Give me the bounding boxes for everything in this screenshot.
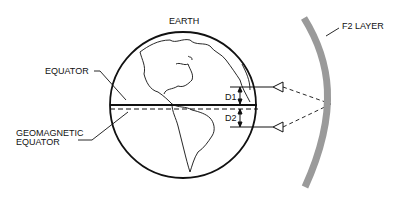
diagram-canvas: EARTH F2 LAYER EQUATOR GEOMAGNETIC EQUAT… xyxy=(0,0,399,197)
geomagnetic-label-line2: EQUATOR xyxy=(16,137,60,147)
earth-label: EARTH xyxy=(169,16,199,26)
d1-label: D1 xyxy=(225,92,237,102)
equator-label: EQUATOR xyxy=(45,66,89,76)
f2-layer-arc xyxy=(304,18,328,187)
d2-label: D2 xyxy=(225,113,237,123)
antenna-upper-icon xyxy=(273,82,283,92)
dimension-arrows xyxy=(238,87,242,127)
f2-layer-label: F2 LAYER xyxy=(342,21,384,31)
antenna-lower-icon xyxy=(273,122,283,132)
